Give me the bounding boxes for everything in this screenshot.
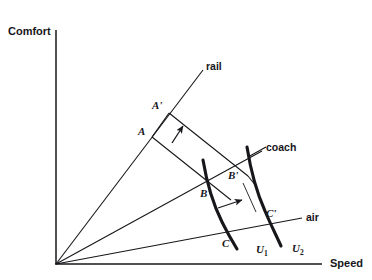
connector-group: [152, 113, 256, 240]
indifference-curve-diagram: Comfort Speed rail coach air A A' B B' C…: [0, 0, 372, 280]
coach-leader-line: [248, 147, 266, 157]
segment-A-to-Aprime-link: [152, 113, 169, 137]
curve-label-U1-subscript: 1: [264, 249, 268, 258]
point-label-C: C: [222, 238, 229, 249]
point-label-A-prime: A': [152, 100, 162, 111]
rail-ray-label: rail: [206, 61, 222, 72]
y-axis-label: Comfort: [8, 26, 51, 37]
coach-ray: [56, 151, 262, 264]
segment-Bprime-to-curve: [243, 183, 256, 212]
curve-label-U1: U1: [256, 244, 268, 258]
curve-label-U2: U2: [292, 243, 304, 257]
point-label-B-prime: B': [228, 170, 238, 181]
rays-group: [56, 70, 302, 264]
point-label-C-prime: C': [266, 208, 276, 219]
segment-Aprime-to-Bprime: [169, 113, 248, 176]
curve-label-U1-base: U: [256, 243, 264, 255]
diagram-canvas: [0, 0, 372, 280]
x-axis-label: Speed: [330, 258, 363, 269]
arrow-lower: [218, 200, 242, 208]
rail-ray: [56, 70, 203, 264]
curve-label-U2-base: U: [292, 242, 300, 254]
ray-leader-group: [248, 147, 266, 157]
point-label-B: B: [200, 188, 207, 199]
coach-ray-label: coach: [266, 142, 296, 153]
air-ray-label: air: [306, 212, 319, 223]
arrow-upper: [172, 126, 183, 143]
curve-label-U2-subscript: 2: [300, 248, 304, 257]
curve-U2: [247, 147, 281, 246]
segment-A-to-B: [152, 137, 231, 200]
point-label-A: A: [138, 126, 145, 137]
